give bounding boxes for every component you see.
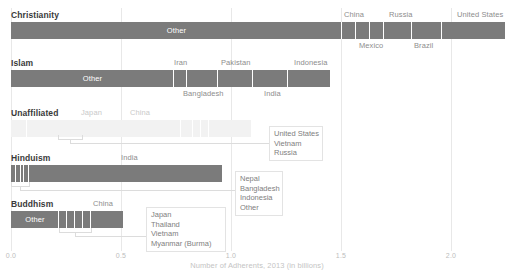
segment-unaffiliated-united-states[interactable] (181, 120, 193, 137)
gridline-3 (341, 8, 342, 251)
segment-label-united-states: United States (457, 10, 503, 19)
callout-item-united-states: United States (274, 129, 318, 139)
segment-label-bangladesh: Bangladesh (183, 89, 224, 98)
leader-line-hinduism-stem-right (29, 182, 30, 187)
leader-line-buddhism-run (75, 236, 146, 237)
segment-label-brazil: Brazil (414, 41, 433, 50)
leader-line-buddhism-drop (75, 232, 76, 237)
callout-unaffiliated[interactable]: United States Vietnam Russia (269, 126, 323, 161)
leader-line-hinduism-run (20, 190, 235, 191)
stacked-bar-chart: Christianity China Russia United States … (0, 0, 514, 278)
bar-christianity[interactable]: Other (11, 22, 505, 39)
segment-unaffiliated-other[interactable] (209, 120, 251, 137)
segment-unaffiliated-japan[interactable] (11, 120, 27, 137)
callout-hinduism[interactable]: Nepal Bangladesh Indonesia Other (235, 171, 283, 216)
callout-item-nepal: Nepal (240, 174, 278, 184)
segment-buddhism-thailand[interactable] (67, 211, 75, 228)
segment-buddhism-vietnam[interactable] (75, 211, 83, 228)
segment-label-india: India (121, 153, 138, 162)
segment-islam-india[interactable] (253, 70, 288, 87)
segment-christianity-china[interactable] (342, 22, 356, 39)
segment-christianity-trailing[interactable] (442, 22, 505, 39)
segment-islam-other[interactable] (11, 70, 174, 87)
leader-line-unaffiliated-stem-right (82, 135, 83, 140)
segment-unaffiliated-vietnam[interactable] (193, 120, 201, 137)
callout-item-vietnam: Vietnam (151, 229, 221, 239)
callout-item-myanmar: Myanmar (Burma) (151, 239, 221, 249)
segment-christianity-mexico[interactable] (356, 22, 370, 39)
segment-unaffiliated-china[interactable] (27, 120, 181, 137)
segment-label-japan: Japan (81, 108, 102, 117)
segment-label-iran: Iran (174, 58, 187, 67)
segment-label-indonesia: Indonesia (294, 58, 327, 67)
segment-islam-bangladesh[interactable] (187, 70, 218, 87)
callout-item-indonesia: Indonesia (240, 193, 278, 203)
bar-hinduism[interactable] (11, 165, 222, 182)
row-label-islam: Islam (11, 58, 33, 68)
segment-christianity-brazil[interactable] (384, 22, 412, 39)
segment-islam-iran[interactable] (174, 70, 187, 87)
leader-line-unaffiliated-run (70, 143, 269, 144)
segment-label-pakistan: Pakistan (221, 58, 251, 67)
x-tick-label-2: 1.0 (226, 252, 236, 259)
segment-buddhism-japan[interactable] (59, 211, 67, 228)
bar-unaffiliated[interactable] (11, 120, 251, 137)
x-tick-label-1: 0.5 (116, 252, 126, 259)
segment-islam-indonesia[interactable] (288, 70, 330, 87)
segment-label-india: India (264, 89, 281, 98)
segment-label-china: China (93, 199, 113, 208)
x-tick-label-0: 0.0 (6, 252, 16, 259)
segment-islam-pakistan[interactable] (218, 70, 253, 87)
segment-buddhism-myanmar[interactable] (83, 211, 91, 228)
callout-item-japan: Japan (151, 210, 221, 220)
callout-buddhism[interactable]: Japan Thailand Vietnam Myanmar (Burma) (146, 207, 226, 252)
chart-top-margin (0, 0, 514, 5)
row-label-hinduism: Hinduism (11, 153, 51, 163)
x-axis-title: Number of Adherents, 2013 (in billions) (190, 261, 324, 270)
segment-hinduism-india[interactable] (29, 165, 222, 182)
callout-item-thailand: Thailand (151, 220, 221, 230)
leader-line-unaffiliated-drop (70, 139, 71, 144)
row-label-christianity: Christianity (11, 10, 59, 20)
segment-buddhism-china[interactable] (91, 211, 123, 228)
segment-label-mexico: Mexico (359, 41, 383, 50)
segment-label-russia: Russia (389, 10, 413, 19)
gridline-4 (451, 8, 452, 251)
segment-buddhism-other[interactable] (11, 211, 59, 228)
segment-unaffiliated-russia[interactable] (201, 120, 209, 137)
segment-label-china: China (130, 108, 150, 117)
callout-item-russia: Russia (274, 148, 318, 158)
bar-buddhism[interactable]: Other (11, 211, 123, 228)
x-tick-label-3: 1.5 (336, 252, 346, 259)
bar-islam[interactable]: Other (11, 70, 330, 87)
segment-christianity-other[interactable] (11, 22, 342, 39)
row-label-unaffiliated: Unaffiliated (11, 108, 58, 118)
callout-item-other: Other (240, 203, 278, 213)
segment-christianity-united-states[interactable] (412, 22, 442, 39)
callout-item-bangladesh: Bangladesh (240, 184, 278, 194)
leader-line-hinduism-drop (20, 186, 21, 191)
segment-label-china: China (344, 10, 364, 19)
segment-christianity-russia[interactable] (370, 22, 384, 39)
callout-item-vietnam: Vietnam (274, 139, 318, 149)
row-label-buddhism: Buddhism (11, 199, 53, 209)
x-tick-label-4: 2.0 (446, 252, 456, 259)
leader-line-buddhism-stem-right (91, 228, 92, 233)
